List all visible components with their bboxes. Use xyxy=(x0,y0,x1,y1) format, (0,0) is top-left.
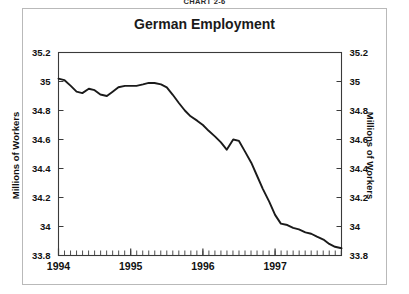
svg-text:1995: 1995 xyxy=(119,260,143,272)
svg-text:35.2: 35.2 xyxy=(350,47,369,58)
svg-text:34.6: 34.6 xyxy=(350,134,369,145)
chart-figure: Chart 2-6 German Employment Millions of … xyxy=(0,0,409,294)
svg-text:35: 35 xyxy=(40,76,51,87)
y-axis-tick-labels-left: 35.23534.834.634.434.23433.8 xyxy=(32,47,51,261)
svg-text:34: 34 xyxy=(350,221,361,232)
svg-text:34.4: 34.4 xyxy=(350,163,369,174)
svg-text:1994: 1994 xyxy=(47,260,71,272)
x-axis-minor-ticks xyxy=(59,251,342,256)
svg-text:1997: 1997 xyxy=(263,260,287,272)
svg-text:34.2: 34.2 xyxy=(32,192,51,203)
y-axis-tick-labels-right: 35.23534.834.634.434.23433.8 xyxy=(350,47,369,261)
svg-text:35.2: 35.2 xyxy=(32,47,51,58)
svg-text:34: 34 xyxy=(40,221,51,232)
svg-text:34.2: 34.2 xyxy=(350,192,369,203)
plot-frame xyxy=(59,53,342,256)
y-axis-ticks-right xyxy=(337,82,342,227)
svg-text:34.8: 34.8 xyxy=(350,105,369,116)
svg-text:1996: 1996 xyxy=(191,260,215,272)
svg-text:34.8: 34.8 xyxy=(32,105,51,116)
svg-text:35: 35 xyxy=(350,76,361,87)
y-axis-ticks-left xyxy=(59,82,64,227)
svg-text:33.8: 33.8 xyxy=(350,250,369,261)
data-series-line xyxy=(59,79,342,249)
svg-text:34.4: 34.4 xyxy=(32,163,51,174)
x-axis-tick-labels: 1994199519961997 xyxy=(47,260,287,272)
plot-area: 35.23534.834.634.434.23433.8 35.23534.83… xyxy=(0,0,409,294)
svg-text:34.6: 34.6 xyxy=(32,134,51,145)
